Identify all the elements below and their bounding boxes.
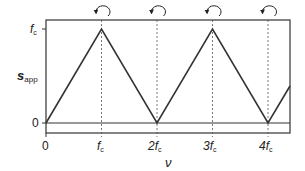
x-tick-label-0: 0	[42, 139, 49, 153]
folding-arrows	[96, 6, 276, 16]
fold-arrow-4fc	[262, 6, 276, 16]
x-tick-label-2fc: 2fc	[147, 139, 162, 153]
y-axis-label: sapp	[17, 68, 38, 84]
dashed-gridlines	[102, 20, 269, 137]
y-tick-label-0: 0	[32, 116, 39, 130]
fold-arrow-2fc	[151, 6, 165, 16]
x-axis-label: ν	[165, 155, 172, 170]
y-tick-label-fc: fc	[30, 22, 37, 36]
x-tick-label-fc: fc	[97, 139, 104, 153]
apparent-frequency-line	[46, 29, 290, 123]
fold-arrow-fc	[96, 6, 110, 16]
fold-arrow-3fc	[207, 6, 221, 16]
aliasing-diagram: sapp fc 0 0 fc 2fc 3fc 4fc ν	[0, 0, 305, 171]
plot-frame	[46, 20, 290, 133]
x-tick-label-4fc: 4fc	[259, 139, 273, 153]
x-tick-label-3fc: 3fc	[203, 139, 217, 153]
